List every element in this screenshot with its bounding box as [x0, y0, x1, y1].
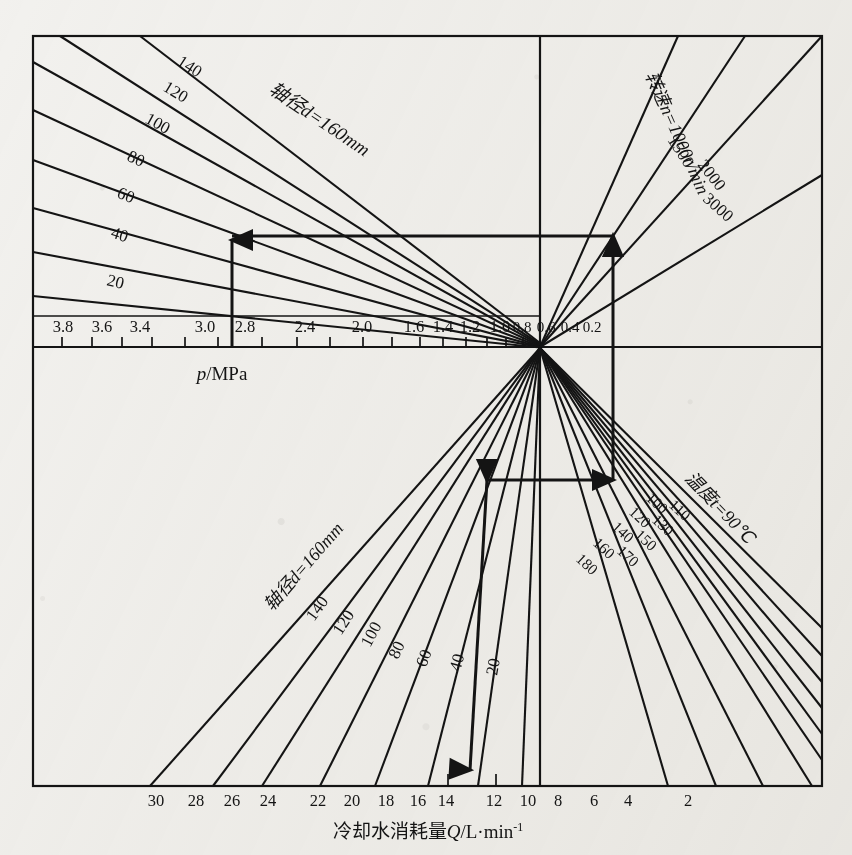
q-tick-22: 22 [310, 791, 327, 810]
pressure-axis-title: p/MPa [195, 363, 248, 384]
ul-curve-160 [140, 36, 540, 343]
q-tick-16: 16 [410, 791, 427, 810]
p-tick-0.8: 0.8 [513, 319, 532, 335]
q-tick-20: 20 [344, 791, 361, 810]
p-tick-1.2: 1.2 [460, 317, 481, 336]
flow-axis-name: 冷却水消耗量 [333, 821, 447, 842]
q-tick-24: 24 [260, 791, 277, 810]
p-tick-3.4: 3.4 [130, 317, 151, 336]
ll-label-80: 80 [384, 638, 408, 661]
ul-label-40: 40 [109, 223, 131, 246]
q-tick-10: 10 [520, 791, 537, 810]
flow-axis-exponent: -1 [513, 820, 523, 834]
lr-series-label: 温度t=90℃ [681, 468, 760, 549]
ll-label-100: 100 [357, 618, 386, 649]
ul-label-60: 60 [115, 183, 138, 207]
q-tick-12: 12 [486, 791, 503, 810]
p-tick-2.4: 2.4 [295, 317, 316, 336]
axis-lines [33, 36, 822, 786]
lr-curve-180 [540, 348, 668, 786]
q-tick-2: 2 [684, 791, 692, 810]
flow-axis-symbol: Q [447, 821, 461, 842]
lr-curve-160 [540, 348, 763, 786]
ur-curve-2000 [540, 36, 822, 347]
ll-series-label: 轴径d=160mm [260, 518, 347, 614]
q-tick-28: 28 [188, 791, 205, 810]
lr-curve-90 [540, 348, 822, 628]
upper-left-curve-labels: 140 120 100 80 60 40 20 轴径d=160mm [105, 51, 374, 293]
ll-curve-80 [375, 348, 540, 786]
q-tick-8: 8 [554, 791, 562, 810]
q-tick-4: 4 [624, 791, 632, 810]
nomogram-figure: 140 120 100 80 60 40 20 轴径d=160mm 转速n=10… [0, 0, 852, 855]
ll-label-140: 140 [302, 593, 332, 625]
flow-axis-unit: /L·min [460, 821, 513, 842]
nomogram-svg: 140 120 100 80 60 40 20 轴径d=160mm 转速n=10… [0, 0, 852, 855]
flow-axis-tick-labels: 30 28 26 24 22 20 18 16 14 12 10 8 6 4 2 [148, 791, 692, 810]
lr-curve-120 [540, 348, 822, 708]
ul-label-140: 140 [174, 51, 206, 81]
upper-right-curve-group [540, 36, 822, 347]
ul-label-100: 100 [142, 109, 174, 138]
q-tick-6: 6 [590, 791, 598, 810]
axis-band-lines [33, 316, 822, 786]
q-tick-14: 14 [438, 791, 455, 810]
ur-label-3000: 3000 [699, 189, 737, 226]
ll-label-60: 60 [412, 647, 436, 669]
upper-right-curve-labels: 转速n=1000r/min 1500 2000 3000 [641, 68, 737, 225]
p-tick-3.0: 3.0 [195, 317, 216, 336]
lr-label-180: 180 [573, 550, 602, 578]
ll-label-40: 40 [446, 652, 469, 673]
ll-curve-60 [428, 348, 540, 786]
ul-label-80: 80 [124, 146, 147, 170]
flow-axis-title: 冷却水消耗量Q/L·min-1 [333, 820, 524, 842]
p-tick-3.6: 3.6 [92, 317, 113, 336]
pressure-axis-symbol: p [195, 363, 207, 384]
p-tick-0.6: 0.6 [537, 319, 556, 335]
lr-label-170: 170 [614, 542, 643, 570]
flow-axis-ticks [448, 774, 496, 786]
lr-curve-130 [540, 348, 822, 734]
p-tick-2.0: 2.0 [352, 317, 373, 336]
p-tick-2.8: 2.8 [235, 317, 256, 336]
pressure-axis-unit: /MPa [206, 363, 248, 384]
p-tick-0.2: 0.2 [583, 319, 602, 335]
p-tick-1.6: 1.6 [404, 317, 425, 336]
chart-frame [33, 36, 822, 786]
path-segment-down-2 [470, 480, 487, 770]
ll-label-20: 20 [482, 657, 504, 677]
q-tick-26: 26 [224, 791, 241, 810]
ll-curve-140 [213, 348, 540, 786]
upper-left-curve-group [33, 36, 540, 348]
upper-left-series-label: 轴径d=160mm [266, 78, 374, 160]
ll-label-120: 120 [328, 606, 358, 638]
p-tick-0.4: 0.4 [561, 319, 580, 335]
lower-right-curve-labels: 温度t=90℃ 100 110 120 130 140 150 160 170 … [573, 468, 760, 578]
p-tick-1.4: 1.4 [433, 317, 454, 336]
p-tick-1.0: 1.0 [490, 317, 511, 336]
ll-curve-100 [320, 348, 540, 786]
p-tick-3.8: 3.8 [53, 317, 74, 336]
ul-label-20: 20 [105, 270, 126, 293]
q-tick-30: 30 [148, 791, 165, 810]
q-tick-18: 18 [378, 791, 395, 810]
